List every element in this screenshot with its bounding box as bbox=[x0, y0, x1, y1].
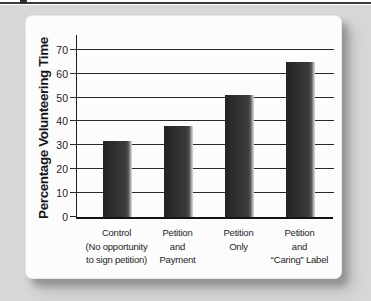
plot-area: 010203040506070 bbox=[76, 35, 333, 219]
y-tick-mark bbox=[70, 168, 77, 169]
bar bbox=[103, 141, 132, 217]
y-tick-label: 50 bbox=[35, 92, 68, 104]
x-category-label-line: and bbox=[254, 240, 346, 254]
x-category-label-line: “Caring” Label bbox=[254, 253, 346, 267]
y-tick-mark bbox=[70, 216, 77, 217]
y-tick-mark bbox=[70, 73, 77, 74]
x-category-label-line: Petition bbox=[254, 226, 346, 240]
y-tick-label: 70 bbox=[35, 44, 68, 56]
y-tick-label: 30 bbox=[35, 139, 68, 151]
bar bbox=[286, 62, 315, 217]
figure: Percentage Volunteering Time 01020304050… bbox=[0, 0, 371, 301]
gridline bbox=[77, 49, 334, 50]
y-tick-label: 60 bbox=[35, 68, 68, 80]
y-tick-mark bbox=[70, 120, 77, 121]
y-tick-mark bbox=[70, 97, 77, 98]
figure-panel: Percentage Volunteering Time 01020304050… bbox=[0, 5, 371, 301]
chart-card: Percentage Volunteering Time 01020304050… bbox=[25, 15, 342, 279]
y-tick-mark bbox=[70, 144, 77, 145]
y-tick-label: 0 bbox=[35, 211, 68, 223]
y-tick-mark bbox=[70, 49, 77, 50]
y-tick-label: 20 bbox=[35, 163, 68, 175]
y-tick-label: 40 bbox=[35, 115, 68, 127]
bar bbox=[225, 95, 254, 217]
y-tick-mark bbox=[70, 192, 77, 193]
x-category-label: Petitionand“Caring” Label bbox=[254, 226, 346, 267]
y-tick-label: 10 bbox=[35, 187, 68, 199]
bar bbox=[164, 126, 193, 217]
x-category-label-line: Payment bbox=[132, 253, 224, 267]
top-rule bbox=[0, 2, 371, 4]
